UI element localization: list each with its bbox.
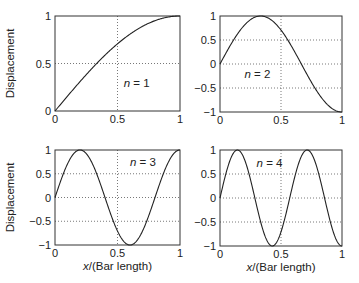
y-tick-label: 0 [45,105,51,117]
y-axis-label: Displacement [4,162,16,232]
x-tick-label: 0.5 [110,247,125,259]
figure: 00.5100.51n = 1Displacement−1−0.500.5100… [0,0,359,283]
x-axis-label: x/(Bar length) [82,260,152,272]
y-tick-label: −1 [203,106,216,118]
x-tick-label: 1 [177,247,183,259]
mode-label: n = 3 [130,156,156,168]
y-tick-label: 1 [45,144,51,156]
y-tick-label: 1 [45,10,51,22]
y-tick-label: 0.5 [36,168,51,180]
x-tick-label: 0.5 [273,114,288,126]
y-tick-label: 1 [210,10,216,22]
y-tick-label: −1 [203,240,216,252]
y-tick-label: 0 [210,58,216,70]
y-tick-label: −0.5 [194,82,216,94]
x-tick-label: 1 [339,114,345,126]
mode-label: n = 4 [257,157,284,169]
y-tick-label: −0.5 [29,215,51,227]
x-tick-label: 0 [217,114,223,126]
y-tick-label: 0 [45,192,51,204]
y-tick-label: 0.5 [201,168,216,180]
x-tick-label: 1 [339,248,345,260]
y-axis-label: Displacement [4,28,16,98]
y-tick-label: 1 [210,144,216,156]
y-tick-label: −1 [38,239,51,251]
y-tick-label: 0.5 [201,34,216,46]
y-tick-label: 0 [210,192,216,204]
panel-2: −1−0.500.5100.51n = 2 [194,10,345,126]
mode-label: n = 2 [244,68,270,80]
y-tick-label: 0.5 [36,58,51,70]
x-tick-label: 0 [217,248,223,260]
x-tick-label: 0.5 [273,248,288,260]
x-tick-label: 0 [52,247,58,259]
y-tick-label: −0.5 [194,216,216,228]
panel-1: 00.5100.51n = 1Displacement [4,10,183,125]
x-tick-label: 0.5 [110,113,125,125]
panel-3: −1−0.500.5100.51n = 3Displacementx/(Bar … [4,144,183,272]
panel-4: −1−0.500.5100.51n = 4x/(Bar length) [194,144,345,273]
x-tick-label: 1 [177,113,183,125]
x-tick-label: 0 [52,113,58,125]
x-axis-label: x/(Bar length) [245,261,315,273]
mode-label: n = 1 [124,77,150,89]
